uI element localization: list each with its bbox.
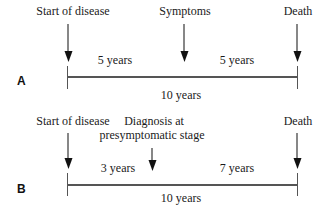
event-label-start-of-disease-b: Start of disease (36, 115, 109, 128)
symptoms-arrow (180, 24, 189, 62)
arrow-shaft (296, 133, 298, 158)
down-arrow-icon (64, 51, 72, 62)
down-arrow-icon (293, 51, 301, 62)
total-duration-label-a: 10 years (161, 89, 201, 102)
interval-label-b1: 3 years (101, 162, 135, 175)
event-label-death-b: Death (284, 115, 313, 128)
start-of-disease-arrow-b (64, 133, 73, 169)
arrow-shaft (67, 133, 69, 158)
death-arrow-b (293, 133, 302, 169)
interval-label-a2: 5 years (220, 54, 254, 67)
event-label-death-a: Death (284, 5, 313, 18)
death-arrow-a (293, 24, 302, 62)
timeline-tick-left-a (67, 66, 69, 89)
disease-timeline-figure: Start of disease Symptoms Death 5 years … (0, 0, 323, 213)
timeline-tick-right-a (297, 66, 299, 89)
arrow-shaft (67, 24, 69, 51)
panel-letter-b: B (17, 183, 26, 196)
interval-label-b2: 7 years (220, 162, 254, 175)
total-duration-label-b: 10 years (161, 192, 201, 205)
panel-letter-a: A (17, 75, 26, 88)
event-label-symptoms: Symptoms (159, 5, 210, 18)
timeline-line-a (68, 76, 298, 78)
event-label-diagnosis-line2: presymptomatic stage (100, 129, 205, 142)
event-label-start-of-disease-a: Start of disease (36, 5, 109, 18)
event-label-diagnosis-line1: Diagnosis at (124, 115, 184, 128)
arrow-shaft (183, 24, 185, 51)
arrow-shaft (296, 24, 298, 51)
diagnosis-arrow (148, 148, 157, 171)
timeline-tick-right-b (297, 173, 299, 196)
down-arrow-icon (180, 51, 188, 62)
start-of-disease-arrow-a (64, 24, 73, 62)
timeline-tick-left-b (67, 173, 69, 196)
timeline-line-b (68, 184, 298, 186)
down-arrow-icon (64, 158, 72, 169)
down-arrow-icon (148, 160, 156, 171)
arrow-shaft (151, 148, 153, 160)
down-arrow-icon (293, 158, 301, 169)
interval-label-a1: 5 years (98, 54, 132, 67)
